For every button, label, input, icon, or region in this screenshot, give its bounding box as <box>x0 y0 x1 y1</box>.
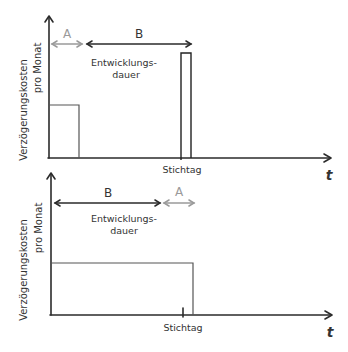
top-deadline-label: Stichtag <box>162 164 201 175</box>
top-chart: Verzögerungskosten pro Monat A B Entwick… <box>18 16 334 183</box>
bottom-b-caption-line1: Entwicklungs- <box>91 213 157 224</box>
top-y-axis-label-line2: pro Monat <box>32 43 43 94</box>
diagram-canvas: Verzögerungskosten pro Monat A B Entwick… <box>0 0 348 352</box>
top-segment-b-label: B <box>135 27 143 41</box>
top-x-axis-label: t <box>326 167 334 183</box>
top-y-axis-label-line1: Verzögerungskosten <box>18 59 29 161</box>
bottom-y-axis-label-line1: Verzögerungskosten <box>18 219 29 321</box>
top-b-caption-line1: Entwicklungs- <box>91 57 157 68</box>
top-a-cost-bar <box>49 105 79 158</box>
bottom-deadline-label: Stichtag <box>163 322 202 333</box>
bottom-constant-cost-bar <box>51 263 193 315</box>
bottom-segment-b-label: B <box>104 186 112 200</box>
top-segment-a-label: A <box>63 27 72 41</box>
bottom-y-axis-label-line2: pro Monat <box>33 203 44 254</box>
bottom-chart: Verzögerungskosten pro Monat B A Entwick… <box>18 173 335 340</box>
bottom-x-axis-label: t <box>327 324 335 340</box>
bottom-segment-a-label: A <box>175 185 184 199</box>
bottom-b-caption-line2: dauer <box>110 225 138 236</box>
top-b-caption-line2: dauer <box>112 69 140 80</box>
top-deadline-spike-bar <box>181 53 191 160</box>
